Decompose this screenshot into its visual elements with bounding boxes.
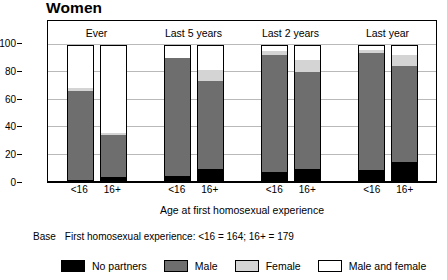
x-tick-label: <16	[163, 184, 190, 200]
legend-swatch-icon	[235, 260, 259, 272]
legend-label: Male	[195, 260, 218, 272]
y-tick-mark-20	[17, 154, 22, 155]
legend-item-2[interactable]: Male	[164, 260, 218, 272]
bar-segment-no-partners	[392, 162, 417, 181]
bar-segment-male	[101, 135, 126, 177]
bar-column[interactable]	[358, 45, 385, 182]
x-tick-label: 16+	[196, 184, 223, 200]
bar-segment-male-and-female	[165, 46, 190, 57]
bar-segment-male	[262, 55, 287, 171]
stacked-bar[interactable]	[261, 45, 288, 182]
x-group-2: <1616+	[145, 184, 243, 200]
x-group-3: <1616+	[242, 184, 340, 200]
x-axis-title: Age at first homosexual experience	[47, 204, 437, 216]
legend-item-4[interactable]: Male and female	[318, 260, 427, 272]
x-axis: <1616+<1616+<1616+<1616+	[47, 184, 437, 200]
bar-segment-no-partners	[165, 176, 190, 181]
bar-segment-male	[198, 81, 223, 169]
bar-segment-male-and-female	[295, 46, 320, 60]
bar-segment-male	[392, 66, 417, 162]
bar-segment-male-and-female	[198, 46, 223, 70]
stacked-bar[interactable]	[294, 45, 321, 182]
bar-segment-male	[295, 72, 320, 169]
bar-group-3	[242, 45, 339, 182]
x-tick-label: <16	[358, 184, 385, 200]
group-header-3: Last 2 years	[242, 21, 339, 44]
chart-title: Women	[46, 0, 102, 16]
bar-column[interactable]	[261, 45, 288, 182]
y-tick-mark-0	[17, 182, 22, 183]
bar-segment-no-partners	[198, 169, 223, 181]
base-label: Base	[33, 231, 56, 242]
y-tick-mark-60	[17, 99, 22, 100]
chart-container: Women Percentage 020406080100 EverLast 5…	[0, 0, 447, 280]
y-tick-mark-40	[17, 126, 22, 127]
bar-column[interactable]	[197, 45, 224, 182]
stacked-bar[interactable]	[164, 45, 191, 182]
bar-group-1	[48, 45, 145, 182]
y-axis: Percentage 020406080100	[0, 44, 47, 183]
bar-segment-male	[68, 91, 93, 180]
bar-segment-male-and-female	[101, 46, 126, 133]
x-tick-label: 16+	[391, 184, 418, 200]
base-text: First homosexual experience: <16 = 164; …	[65, 231, 294, 242]
group-header-1: Ever	[48, 21, 145, 44]
stacked-bar[interactable]	[67, 45, 94, 182]
stacked-bar[interactable]	[358, 45, 385, 182]
plot-area	[48, 45, 436, 182]
legend-label: Male and female	[349, 260, 427, 272]
bar-group-4	[339, 45, 436, 182]
bar-segment-female	[198, 70, 223, 81]
stacked-bar[interactable]	[100, 45, 127, 182]
bar-segment-male	[165, 58, 190, 175]
bars-layer	[48, 45, 436, 182]
plot-frame: EverLast 5 yearsLast 2 yearsLast year	[47, 20, 437, 183]
bar-segment-female	[295, 60, 320, 72]
bar-column[interactable]	[67, 45, 94, 182]
x-group-4: <1616+	[340, 184, 438, 200]
legend-swatch-icon	[318, 260, 342, 272]
bar-segment-no-partners	[359, 170, 384, 181]
x-group-1: <1616+	[47, 184, 145, 200]
y-tick-label-100: 100	[0, 39, 16, 49]
bar-segment-male-and-female	[68, 46, 93, 88]
legend-item-3[interactable]: Female	[235, 260, 301, 272]
group-header-4: Last year	[339, 21, 436, 44]
stacked-bar[interactable]	[197, 45, 224, 182]
legend-label: Female	[266, 260, 301, 272]
bar-column[interactable]	[100, 45, 127, 182]
y-tick-label-80: 80	[5, 67, 16, 77]
bar-segment-female	[392, 55, 417, 66]
y-tick-mark-100	[17, 43, 22, 44]
x-tick-label: 16+	[294, 184, 321, 200]
group-header-band: EverLast 5 yearsLast 2 yearsLast year	[48, 21, 436, 45]
bar-column[interactable]	[391, 45, 418, 182]
bar-segment-male	[359, 53, 384, 170]
base-note: BaseFirst homosexual experience: <16 = 1…	[33, 231, 294, 242]
y-tick-label-20: 20	[5, 150, 16, 160]
bar-group-2	[145, 45, 242, 182]
bar-segment-male-and-female	[392, 46, 417, 55]
legend-label: No partners	[92, 260, 147, 272]
bar-segment-no-partners	[101, 177, 126, 181]
bar-column[interactable]	[164, 45, 191, 182]
legend-swatch-icon	[164, 260, 188, 272]
legend-swatch-icon	[61, 260, 85, 272]
y-tick-label-60: 60	[5, 95, 16, 105]
group-header-2: Last 5 years	[145, 21, 242, 44]
y-tick-label-0: 0	[10, 178, 16, 188]
x-tick-label: <16	[66, 184, 93, 200]
bar-segment-no-partners	[68, 180, 93, 181]
legend-item-1[interactable]: No partners	[61, 260, 147, 272]
bar-segment-no-partners	[262, 172, 287, 181]
chart-legend: No partnersMaleFemaleMale and female	[61, 260, 443, 272]
y-tick-label-40: 40	[5, 122, 16, 132]
x-tick-label: 16+	[99, 184, 126, 200]
bar-segment-no-partners	[295, 169, 320, 181]
x-tick-label: <16	[261, 184, 288, 200]
stacked-bar[interactable]	[391, 45, 418, 182]
y-tick-mark-80	[17, 71, 22, 72]
bar-column[interactable]	[294, 45, 321, 182]
